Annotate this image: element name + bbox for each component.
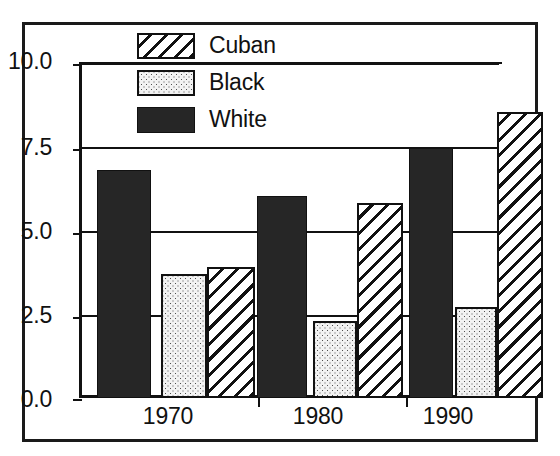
- legend-label-cuban: Cuban: [209, 32, 276, 58]
- bar-chart-figure: 10.0 7.5 5.0 2.5 0.0 1970 1980 1990: [0, 0, 560, 456]
- legend-swatch-black-icon: [137, 70, 195, 96]
- bar-1970-black: [161, 274, 207, 398]
- y-tick-0: [73, 399, 82, 401]
- y-axis-label-7-5: 7.5: [21, 136, 52, 159]
- legend-item-black: Black: [137, 68, 367, 105]
- bar-1990-white: [409, 148, 453, 398]
- chart-legend: Cuban Black White: [137, 31, 367, 142]
- y-axis-label-2-5: 2.5: [21, 304, 52, 327]
- y-axis-label-0: 0.0: [21, 388, 52, 411]
- x-tick-1: [258, 398, 260, 407]
- x-axis-label-1990: 1990: [400, 405, 496, 428]
- y-axis-label-5: 5.0: [21, 220, 52, 243]
- bar-1970-cuban: [207, 267, 255, 398]
- bar-1990-cuban: [497, 112, 543, 398]
- legend-swatch-white-icon: [137, 107, 195, 133]
- bar-1990-black: [455, 307, 497, 398]
- legend-item-white: White: [137, 105, 367, 142]
- x-axis-label-1970: 1970: [120, 405, 216, 428]
- bar-1980-white: [257, 196, 307, 398]
- legend-swatch-cuban-icon: [137, 33, 195, 59]
- bar-1980-black: [313, 321, 357, 398]
- legend-label-white: White: [209, 106, 267, 132]
- legend-label-black: Black: [209, 69, 264, 95]
- y-axis-label-10: 10.0: [8, 50, 52, 73]
- legend-item-cuban: Cuban: [137, 31, 367, 68]
- bar-1980-cuban: [357, 203, 403, 398]
- bar-1970-white: [97, 170, 151, 398]
- x-axis-label-1980: 1980: [270, 405, 366, 428]
